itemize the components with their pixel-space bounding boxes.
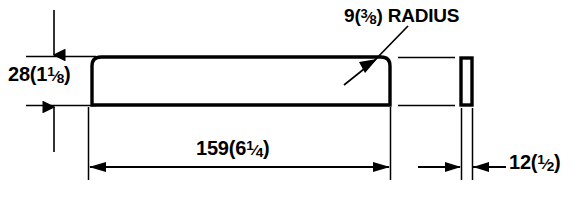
thickness-left-arrowhead	[445, 162, 461, 172]
bar-profile-outline	[92, 57, 390, 105]
thickness-fraction-numerator: 1	[537, 152, 544, 167]
radius-imperial-fraction: 3⁄8	[361, 10, 377, 25]
length-fraction-denominator: 4	[256, 145, 263, 160]
length-right-arrowhead	[373, 162, 390, 172]
length-imperial-whole: 6	[235, 137, 246, 159]
thickness-close-paren: )	[554, 151, 560, 173]
height-imperial-whole: 1	[36, 63, 47, 85]
height-close-paren: )	[64, 63, 70, 85]
radius-leader-line	[373, 26, 408, 62]
thickness-right-arrowhead	[473, 162, 489, 172]
length-left-arrowhead	[89, 162, 106, 172]
projection-lines-group	[398, 58, 455, 106]
radius-dimension-label: 9(3⁄8) RADIUS	[344, 6, 459, 25]
thickness-metric-value: 12	[509, 151, 531, 173]
length-imperial-fraction: 1⁄4	[246, 142, 263, 158]
height-metric-value: 28	[8, 63, 30, 85]
length-dimension-label: 159(61⁄4)	[196, 138, 269, 158]
height-fraction-denominator: 8	[57, 71, 64, 86]
side-view-rectangle	[461, 58, 472, 105]
height-imperial-fraction: 1⁄8	[47, 68, 64, 84]
main-profile-view	[92, 57, 390, 105]
thickness-fraction-denominator: 2	[547, 159, 554, 174]
technical-drawing: 28(11⁄8) 159(61⁄4) 9(3⁄8) RADIUS 12(1⁄2)	[0, 0, 577, 208]
length-close-paren: )	[263, 137, 269, 159]
thickness-imperial-fraction: 1⁄2	[537, 156, 554, 172]
length-metric-value: 159	[196, 137, 229, 159]
radius-note-text: RADIUS	[388, 5, 460, 26]
side-profile-view	[461, 58, 472, 105]
thickness-dimension-label: 12(1⁄2)	[509, 152, 561, 172]
radius-close-paren: )	[376, 5, 382, 26]
drawing-canvas	[0, 0, 577, 208]
height-dimension-label: 28(11⁄8)	[8, 64, 71, 84]
radius-fraction-denominator: 8	[370, 12, 377, 27]
height-fraction-numerator: 1	[47, 64, 54, 79]
thickness-dimension-group	[418, 108, 506, 180]
radius-metric-value: 9	[344, 5, 354, 26]
